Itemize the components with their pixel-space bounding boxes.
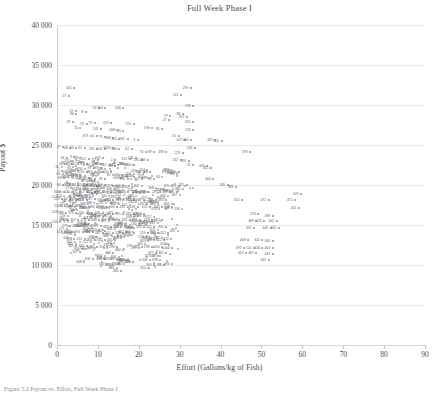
data-point — [298, 207, 300, 209]
figure-caption: Figure 5.2 Payout vs. Effort, Full Week … — [4, 386, 304, 396]
data-point-label: 196 — [89, 147, 95, 151]
data-point-label: 64 — [142, 176, 146, 180]
data-point — [147, 177, 149, 179]
data-point-label: 9 — [133, 138, 135, 142]
data-point — [235, 186, 237, 188]
data-point — [73, 238, 75, 240]
data-point-label: 281 — [134, 158, 140, 162]
data-point — [117, 167, 119, 169]
data-point — [162, 247, 164, 249]
data-point-label: 61 — [78, 146, 82, 150]
data-point-label: 132 — [172, 158, 178, 162]
data-point-label: 66 — [57, 183, 61, 187]
data-point — [121, 186, 123, 188]
data-point-label: 295 — [127, 244, 133, 248]
data-point — [106, 247, 108, 249]
data-point — [161, 128, 163, 130]
data-point — [105, 207, 107, 209]
data-point — [241, 199, 243, 201]
data-point-label: 293 — [166, 171, 172, 175]
data-point — [186, 116, 188, 118]
data-point-label: 422 — [170, 229, 176, 233]
data-point-label: 299 — [183, 86, 189, 90]
data-point — [147, 159, 149, 161]
data-point-label: 209 — [74, 224, 80, 228]
data-point — [114, 159, 116, 161]
data-point-label: 406 — [183, 138, 189, 142]
data-point — [75, 113, 77, 115]
data-point-label: 86 — [70, 112, 74, 116]
y-tick-label: 15 000 — [0, 221, 52, 230]
data-point-label: 496 — [164, 262, 170, 266]
data-point — [221, 140, 223, 142]
data-point — [153, 151, 155, 153]
data-point — [138, 170, 140, 172]
data-point — [104, 107, 106, 109]
data-point — [170, 238, 172, 240]
data-point — [192, 187, 194, 189]
data-point — [192, 105, 194, 107]
data-point — [168, 119, 170, 121]
data-point-label: 443 — [95, 156, 101, 160]
data-point-label: 108 — [174, 207, 180, 211]
x-tick-mark — [57, 345, 58, 349]
data-point-label: 488 — [80, 202, 86, 206]
data-point — [152, 194, 154, 196]
data-point — [140, 191, 142, 193]
data-point — [100, 128, 102, 130]
data-point — [162, 188, 164, 190]
data-point-label: 39 — [89, 178, 93, 182]
x-tick-label: 90 — [411, 350, 439, 359]
data-point — [100, 225, 102, 227]
data-point-label: 401 — [291, 206, 297, 210]
data-point-label: 119 — [87, 183, 92, 187]
data-point — [130, 178, 132, 180]
data-point-label: 400 — [164, 246, 170, 250]
data-point — [161, 219, 163, 221]
data-point-label: 425 — [293, 192, 299, 196]
data-point — [272, 215, 274, 217]
data-point — [149, 221, 151, 223]
data-point-label: 39 — [99, 177, 103, 181]
data-point-label: 348 — [132, 190, 138, 194]
data-point-label: 59 — [80, 122, 84, 126]
data-point-label: 356 — [125, 230, 131, 234]
data-point-label: 493 — [158, 150, 164, 154]
data-point-label: 310 — [185, 120, 191, 124]
data-point — [188, 160, 190, 162]
data-point — [93, 249, 95, 251]
data-point-label: 480 — [100, 199, 106, 203]
chart-title: Full Week Phase I — [0, 3, 439, 13]
data-point — [94, 122, 96, 124]
data-point-label: 445 — [260, 258, 266, 262]
data-point — [192, 129, 194, 131]
data-point — [122, 130, 124, 132]
data-point-label: 437 — [171, 193, 177, 197]
data-point — [181, 208, 183, 210]
data-point — [167, 195, 169, 197]
data-point — [176, 224, 178, 226]
data-point-label: 348 — [148, 186, 154, 190]
data-point-label: 290 — [77, 167, 83, 171]
data-point-label: 48 — [64, 146, 68, 150]
data-point-label: 121 — [52, 195, 58, 199]
data-point — [300, 193, 302, 195]
gridline — [57, 105, 425, 106]
data-point — [147, 232, 149, 234]
data-point-label: 415 — [122, 203, 128, 207]
data-point-label: 229 — [175, 151, 181, 155]
data-point-label: 1840 — [103, 146, 111, 150]
x-tick-mark — [139, 345, 140, 349]
data-point-label: 339 — [264, 214, 270, 218]
data-point — [169, 253, 171, 255]
data-point-label: 275 — [64, 220, 70, 224]
y-tick-label: 5 000 — [0, 301, 52, 310]
x-tick-label: 50 — [247, 350, 275, 359]
data-point — [194, 147, 196, 149]
data-point — [165, 151, 167, 153]
data-point-label: 69 — [70, 146, 74, 150]
x-tick-mark — [98, 345, 99, 349]
data-point — [177, 248, 179, 250]
data-point — [247, 239, 249, 241]
data-point-label: 487 — [248, 251, 254, 255]
